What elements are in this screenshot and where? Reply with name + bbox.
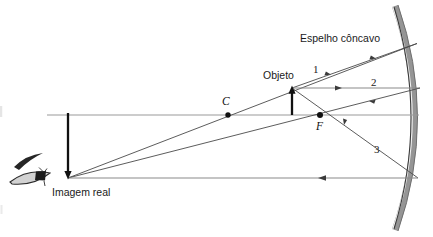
scan-artifact: [0, 106, 3, 214]
ray-2: [68, 85, 420, 178]
observer-eye: [10, 153, 50, 186]
ray-3-label: 3: [374, 144, 380, 155]
image-arrow: [64, 113, 71, 180]
mirror-label: Espelho côncavo: [300, 33, 380, 44]
focus-dot: [317, 112, 323, 118]
ray-2-label: 2: [371, 77, 377, 88]
image-label: Imagem real: [52, 187, 110, 198]
object-label: Objeto: [263, 70, 294, 81]
ray-1: [68, 44, 417, 179]
focus-label: F: [316, 121, 323, 133]
center-of-curvature-label: C: [222, 96, 230, 108]
concave-mirror: [392, 5, 418, 231]
center-of-curvature-dot: [225, 112, 230, 117]
ray-1-label: 1: [313, 64, 319, 75]
